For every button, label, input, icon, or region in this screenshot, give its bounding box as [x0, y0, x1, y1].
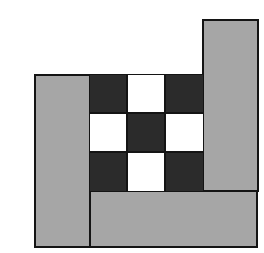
grid-cell-light — [89, 113, 127, 152]
grid-cell-dark — [165, 74, 204, 113]
nine-patch-grid — [89, 74, 204, 192]
right-strip — [202, 19, 259, 192]
quilt-figure — [0, 0, 264, 253]
grid-cell-light — [127, 74, 165, 113]
grid-cell-light — [127, 152, 165, 192]
grid-cell-light — [165, 113, 204, 152]
grid-cell-dark — [165, 152, 204, 192]
grid-cell-dark — [127, 113, 165, 152]
grid-cell-dark — [89, 74, 127, 113]
left-strip — [34, 74, 91, 248]
bottom-strip — [89, 190, 258, 248]
grid-cell-dark — [89, 152, 127, 192]
